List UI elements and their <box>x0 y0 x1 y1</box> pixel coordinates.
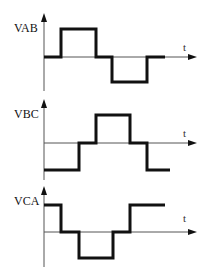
three-phase-voltage-diagram: VAB t VBC t VCA t <box>0 0 203 278</box>
vab-t-arrow-icon <box>188 54 197 60</box>
vab-label: VAB <box>14 21 38 35</box>
vca-t-arrow-icon <box>188 229 197 235</box>
vca-label: VCA <box>14 194 40 208</box>
vbc-t-label: t <box>183 127 186 139</box>
panel-vca: VCA t <box>14 186 197 267</box>
vca-t-label: t <box>183 212 186 224</box>
vbc-label: VBC <box>14 107 39 121</box>
vca-y-arrow-icon <box>41 186 47 195</box>
panel-vab: VAB t <box>14 13 197 91</box>
vbc-y-arrow-icon <box>41 99 47 108</box>
vab-t-label: t <box>183 41 186 53</box>
vab-waveform <box>44 29 165 82</box>
vab-y-arrow-icon <box>41 13 47 22</box>
vbc-t-arrow-icon <box>188 140 197 146</box>
panel-vbc: VBC t <box>14 99 197 180</box>
